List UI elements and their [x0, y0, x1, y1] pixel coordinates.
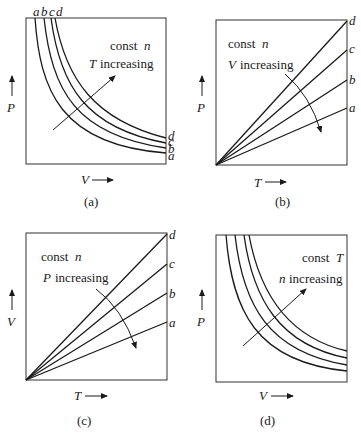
constant-var: n	[75, 249, 82, 264]
trend-var: n	[279, 271, 286, 286]
y-axis-label: P	[196, 100, 205, 115]
caption: (c)	[77, 413, 91, 428]
label-a: a	[169, 315, 176, 330]
trend-text: increasing	[240, 57, 294, 72]
label-c: c	[349, 41, 355, 56]
label-b: b	[169, 286, 176, 301]
top-label-d: d	[56, 4, 63, 19]
x-axis-label: T	[254, 175, 262, 190]
trend-text: increasing	[100, 56, 154, 71]
trend-arrow	[53, 76, 115, 130]
top-label-a: a	[33, 4, 40, 19]
line-a	[26, 322, 167, 380]
y-axis-label: P	[196, 314, 205, 329]
caption: (d)	[260, 413, 275, 428]
line-a	[216, 108, 347, 165]
constant-label: const	[41, 249, 69, 264]
panel-c: d c b a const n P increasing T V (c)	[7, 227, 176, 428]
panel-b: d c b a const n V increasing T P (b)	[196, 13, 356, 209]
x-axis-label: V	[81, 172, 91, 187]
curve-c	[51, 18, 166, 143]
trend-arrow	[96, 289, 136, 348]
constant-var: n	[262, 36, 269, 51]
x-axis-label: V	[259, 388, 269, 403]
panel-d: const T n increasing V P (d)	[196, 235, 347, 428]
x-axis-label: T	[74, 388, 82, 403]
label-d: d	[349, 13, 356, 28]
label-a: a	[349, 100, 356, 115]
constant-var: T	[336, 250, 344, 265]
top-label-b: b	[41, 4, 48, 19]
constant-label: const	[228, 36, 256, 51]
constant-label: const	[110, 38, 138, 53]
trend-text: increasing	[55, 270, 109, 285]
caption: (a)	[84, 194, 98, 209]
gas-law-diagrams: a b c d d c b a const n T increasing V P…	[0, 0, 361, 434]
trend-var: T	[89, 56, 97, 71]
caption: (b)	[275, 194, 290, 209]
trend-var: V	[228, 57, 238, 72]
curve-4	[249, 235, 347, 351]
line-b	[26, 293, 167, 380]
y-axis-label: V	[7, 314, 17, 329]
label-d: d	[169, 227, 176, 242]
right-label-a: a	[168, 148, 175, 163]
panel-a: a b c d d c b a const n T increasing V P…	[6, 4, 175, 209]
y-axis-label: P	[6, 100, 15, 115]
trend-var: P	[42, 270, 51, 285]
constant-label: const	[302, 250, 330, 265]
curve-3	[244, 235, 347, 358]
constant-var: n	[144, 38, 151, 53]
label-c: c	[169, 256, 175, 271]
trend-text: increasing	[289, 271, 343, 286]
label-b: b	[349, 72, 356, 87]
top-label-c: c	[49, 4, 55, 19]
